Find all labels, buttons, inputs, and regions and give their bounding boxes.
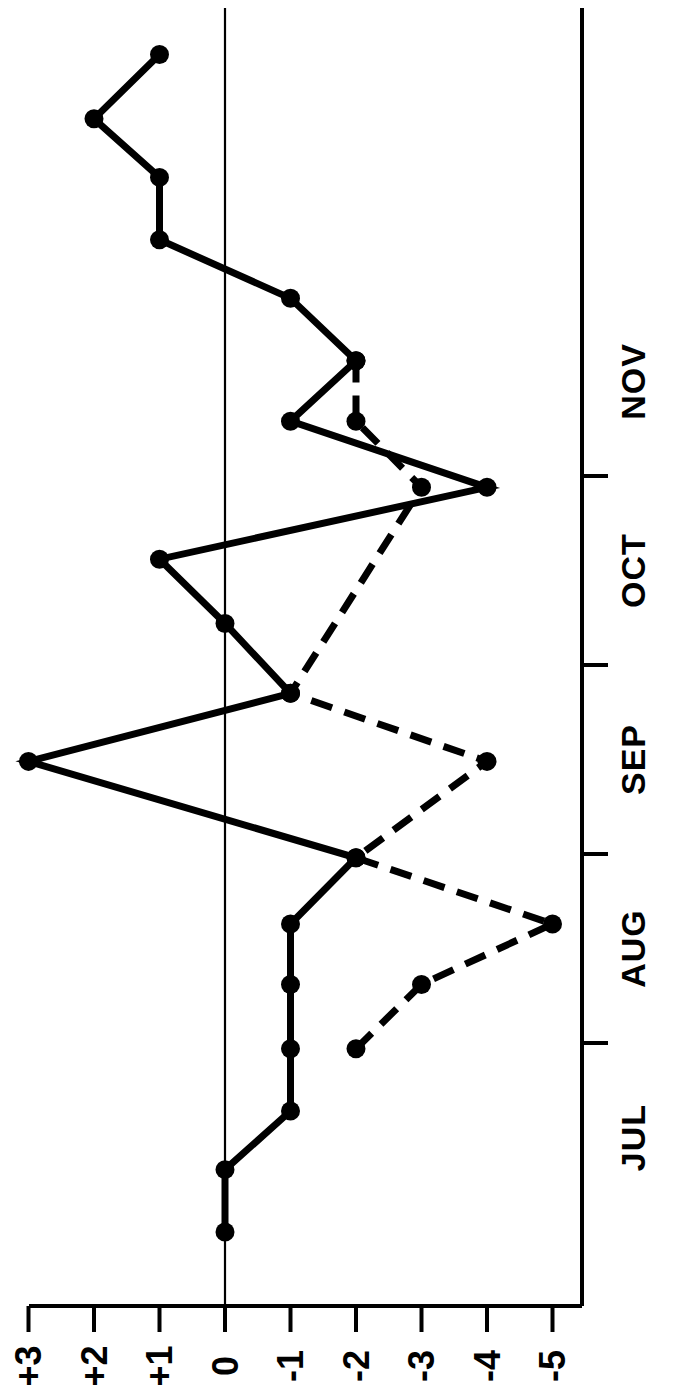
data-point-dashed-series-8 bbox=[347, 351, 366, 370]
data-point-solid-series-5 bbox=[281, 914, 300, 933]
data-point-solid-series-10 bbox=[150, 550, 169, 569]
data-point-solid-series-3 bbox=[281, 1039, 300, 1058]
data-point-solid-series-18 bbox=[150, 45, 169, 64]
data-point-solid-series-9 bbox=[216, 614, 235, 633]
data-point-dashed-series-1 bbox=[412, 975, 431, 994]
data-point-dashed-series-7 bbox=[347, 412, 366, 431]
value-axis-label-6: -3 bbox=[401, 1350, 442, 1382]
data-point-solid-series-17 bbox=[85, 109, 104, 128]
time-axis-label-aug: AUG bbox=[614, 909, 652, 988]
value-axis-label-7: -4 bbox=[467, 1350, 508, 1382]
data-point-solid-series-15 bbox=[150, 230, 169, 249]
data-point-solid-series-16 bbox=[150, 168, 169, 187]
time-axis-label-oct: OCT bbox=[614, 533, 652, 608]
data-point-solid-series-1 bbox=[216, 1160, 235, 1179]
data-point-dashed-series-0 bbox=[347, 1039, 366, 1058]
data-point-dashed-series-4 bbox=[478, 752, 497, 771]
value-axis-label-8: -5 bbox=[532, 1350, 573, 1382]
value-axis-label-5: -2 bbox=[336, 1350, 377, 1382]
series-line-solid-series bbox=[29, 55, 488, 1232]
data-point-solid-series-0 bbox=[216, 1223, 235, 1242]
data-point-solid-series-7 bbox=[19, 752, 38, 771]
data-point-solid-series-2 bbox=[281, 1102, 300, 1121]
value-axis-label-2: +1 bbox=[139, 1345, 180, 1386]
data-point-solid-series-14 bbox=[281, 289, 300, 308]
value-axis-label-4: -1 bbox=[270, 1350, 311, 1382]
value-axis-label-1: +2 bbox=[74, 1345, 115, 1386]
data-point-dashed-series-2 bbox=[543, 914, 562, 933]
value-axis-label-3: 0 bbox=[205, 1356, 246, 1376]
data-point-solid-series-4 bbox=[281, 975, 300, 994]
chart-figure: JULAUGSEPOCTNOV+3+2+10-1-2-3-4-5 bbox=[0, 0, 680, 1390]
time-axis-label-sep: SEP bbox=[614, 724, 652, 795]
value-axis-label-0: +3 bbox=[8, 1345, 49, 1386]
data-point-dashed-series-3 bbox=[347, 848, 366, 867]
data-point-dashed-series-6 bbox=[412, 478, 431, 497]
data-point-dashed-series-5 bbox=[281, 684, 300, 703]
time-axis-label-nov: NOV bbox=[614, 343, 652, 420]
data-point-solid-series-11 bbox=[478, 478, 497, 497]
time-axis-label-jul: JUL bbox=[614, 1104, 652, 1171]
data-point-solid-series-12 bbox=[281, 412, 300, 431]
chart-canvas: JULAUGSEPOCTNOV+3+2+10-1-2-3-4-5 bbox=[0, 0, 680, 1390]
